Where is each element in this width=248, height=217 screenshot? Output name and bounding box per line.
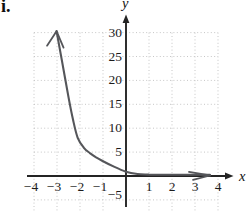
x-tick-label: 1: [146, 180, 153, 194]
y-tick-label: 30: [109, 26, 123, 40]
y-tick-label: 20: [109, 73, 123, 87]
y-tick-label: 10: [109, 121, 123, 135]
x-tick-label: −4: [24, 180, 38, 194]
x-tick-label: 2: [169, 180, 176, 194]
curve-path: [57, 31, 210, 175]
exponential-curve: [47, 31, 210, 180]
y-tick-label: 25: [109, 50, 123, 64]
x-tick-label: 3: [192, 180, 199, 194]
y-tick-label: −5: [108, 188, 122, 202]
y-tick-label: 15: [109, 97, 123, 111]
curve-start-arrow-icon: [47, 31, 57, 46]
x-axis-arrow-icon: [225, 173, 234, 180]
y-axis-label: y: [122, 0, 128, 11]
plot-area: −4−3−2−1123430252015105−5 x y: [0, 0, 248, 217]
exponential-graph-figure: i. −4−3−2−1123430252015105−5 x y: [0, 0, 248, 217]
y-tick-label: 5: [115, 145, 122, 159]
x-tick-label: −2: [70, 180, 84, 194]
x-axis-label: x: [239, 169, 245, 184]
x-tick-label: −3: [47, 180, 61, 194]
x-tick-label: −1: [93, 180, 107, 194]
x-tick-label: 4: [215, 180, 222, 194]
y-axis-arrow-icon: [123, 15, 130, 24]
